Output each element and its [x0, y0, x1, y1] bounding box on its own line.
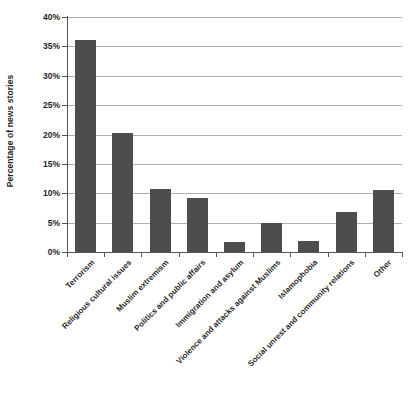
x-tick-mark	[328, 253, 329, 257]
y-tick-mark	[62, 223, 67, 224]
y-tick-label: 10%	[43, 188, 60, 198]
y-tick-mark	[62, 164, 67, 165]
x-tick-label-text: Other	[372, 258, 393, 279]
y-axis-tick-labels: 0%5%10%15%20%25%30%35%40%	[20, 10, 66, 260]
y-axis-title: Percentage of news stories	[0, 0, 20, 262]
bar-chart: Percentage of news stories 0%5%10%15%20%…	[0, 0, 418, 396]
x-tick-mark	[402, 253, 403, 257]
x-tick-mark	[67, 253, 68, 257]
x-tick-label-text: Terrorism	[64, 258, 96, 290]
x-tick-mark	[104, 253, 105, 257]
x-tick-label-text: Immigration and asylum	[173, 258, 244, 329]
y-tick-label: 40%	[43, 12, 60, 22]
y-tick-mark	[62, 17, 67, 18]
x-tick-mark	[179, 253, 180, 257]
y-tick-label: 30%	[43, 71, 60, 81]
y-tick-mark	[62, 76, 67, 77]
bar[interactable]	[75, 40, 96, 252]
y-tick-label: 5%	[48, 218, 60, 228]
x-tick-mark	[216, 253, 217, 257]
y-tick-label: 25%	[43, 100, 60, 110]
y-tick-mark	[62, 193, 67, 194]
bars-layer	[67, 17, 403, 252]
x-tick-mark	[365, 253, 366, 257]
y-tick-label: 35%	[43, 41, 60, 51]
y-tick-mark	[62, 105, 67, 106]
y-tick-label: 0%	[48, 247, 60, 257]
y-tick-mark	[62, 46, 67, 47]
x-tick-mark	[141, 253, 142, 257]
y-tick-label: 20%	[43, 130, 60, 140]
y-axis-title-text: Percentage of news stories	[5, 75, 15, 188]
y-tick-label: 15%	[43, 159, 60, 169]
x-axis-line	[67, 252, 403, 253]
x-tick-mark	[253, 253, 254, 257]
x-tick-label-text: Religious cultural issues	[60, 258, 133, 331]
y-tick-mark	[62, 135, 67, 136]
x-tick-label-text: Politics and public affairs	[133, 258, 208, 333]
x-tick-mark	[290, 253, 291, 257]
